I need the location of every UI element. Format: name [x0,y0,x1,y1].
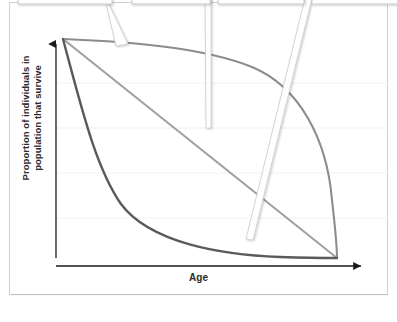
screenshot-root: Proportion of individuals in population … [0,0,397,322]
callout-boxes[interactable] [18,0,397,4]
callout-leader-lines [104,0,313,240]
callout-tail-type-iii [246,0,313,240]
type-ii-curve [63,39,337,258]
callout-box-type-ii[interactable] [132,0,210,4]
callout-box-type-iii[interactable] [218,0,304,4]
x-axis-label: Age [0,272,397,283]
callout-tail-type-ii [205,0,211,128]
gridlines [55,83,388,218]
callout-tail-type-i [104,0,128,46]
callout-box-type-i[interactable] [18,0,112,4]
callout-box-type-iii-right[interactable] [312,0,397,4]
